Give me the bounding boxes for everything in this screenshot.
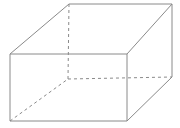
- cuboid-edge-front_top_right-back_top_right: [127, 4, 172, 54]
- cuboid-edge-front_top_left-back_top_left: [10, 4, 69, 54]
- cuboid-edge-back_bottom_left-back_top_left: [68, 4, 69, 79]
- cuboid-edge-back_bottom_left-back_bottom_right: [68, 77, 172, 79]
- cuboid-edge-front_bottom_left-back_bottom_left: [10, 79, 68, 121]
- cuboid-figure: [0, 0, 180, 128]
- cuboid-edge-front_bottom_right-back_bottom_right: [127, 77, 172, 121]
- cuboid-wireframe-drawing: [0, 0, 180, 128]
